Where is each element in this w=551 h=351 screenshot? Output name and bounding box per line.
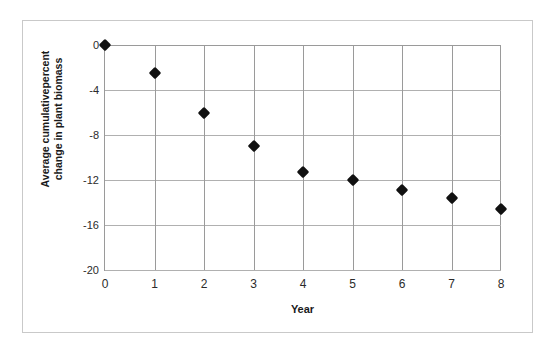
figure-root: Average cumulativepercent change in plan… [0,0,551,351]
data-point-marker [198,106,211,119]
plot-right-border [500,45,501,270]
x-tick-label: 6 [399,277,406,291]
x-tick-label: 2 [201,277,208,291]
gridline-horizontal [105,270,501,271]
gridline-vertical [254,45,255,270]
x-tick-label: 5 [349,277,356,291]
x-tick-label: 8 [498,277,505,291]
plot-area: 0-4-8-12-16-20 012345678 [104,45,501,271]
gridline-vertical [303,45,304,270]
y-tick-label: -16 [83,219,99,231]
x-tick-label: 4 [300,277,307,291]
gridline-vertical [204,45,205,270]
gridline-vertical [452,45,453,270]
data-point-marker [297,166,310,179]
data-point-marker [247,140,260,153]
y-tick-label: -20 [83,264,99,276]
data-point-marker [445,192,458,205]
y-tick-label: -4 [89,84,99,96]
x-axis-title: Year [104,303,501,315]
gridline-vertical [402,45,403,270]
y-axis-title-line2: change in plant biomass [52,58,65,181]
data-point-marker [346,174,359,187]
y-tick-label: -8 [89,129,99,141]
x-tick-label: 1 [151,277,158,291]
data-point-marker [396,184,409,197]
gridline-vertical [353,45,354,270]
y-axis-title-line1: Average cumulativepercent [39,51,52,188]
y-tick-label: -12 [83,174,99,186]
x-tick-label: 7 [448,277,455,291]
x-tick-label: 3 [250,277,257,291]
x-tick-label: 0 [102,277,109,291]
data-point-marker [148,67,161,80]
y-axis-title: Average cumulativepercent change in plan… [35,4,69,234]
